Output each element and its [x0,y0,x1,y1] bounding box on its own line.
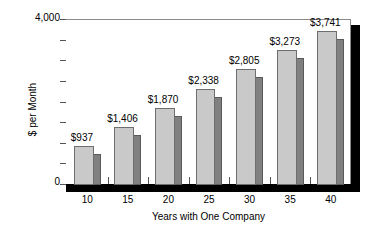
y-axis-title: $ per Month [27,55,38,165]
bar-value-label: $3,273 [269,36,300,47]
x-axis-tick-label: 40 [311,194,351,205]
bar[interactable] [196,89,223,185]
bar-group: $937 [74,20,101,185]
x-axis-tick [108,177,109,184]
bar-side-shadow [337,39,344,185]
bar-value-label: $1,406 [107,113,138,124]
bar-chart-figure: $ per Month 4,000 0 $937$1,406$1,870$2,3… [0,0,379,232]
bar-front-face [317,31,337,185]
bar-side-shadow [297,58,304,185]
bar-side-shadow [134,135,141,185]
bar-front-face [236,69,256,185]
bar-group: $2,805 [236,20,263,185]
bar[interactable] [114,127,141,185]
x-axis-tick [229,177,230,184]
bar-front-face [155,108,175,185]
bar-side-shadow [94,154,101,185]
bar-side-shadow [175,116,182,185]
bar[interactable] [74,146,101,185]
x-axis-tick [189,177,190,184]
bar[interactable] [317,31,344,185]
bar-group: $2,338 [196,20,223,185]
bar-group: $3,273 [277,20,304,185]
bar-value-label: $1,870 [148,94,179,105]
bar[interactable] [236,69,263,185]
bar-side-shadow [256,77,263,185]
x-axis-tick-label: 30 [230,194,270,205]
bar-front-face [74,146,94,185]
bar-front-face [196,89,216,185]
bar-value-label: $937 [71,132,93,143]
frame-shadow-right [351,25,360,192]
bar-front-face [277,50,297,185]
bar-group: $1,870 [155,20,182,185]
x-axis-tick-label: 10 [67,194,107,205]
frame-shadow-bottom [66,184,360,192]
bar[interactable] [277,50,304,185]
x-axis-tick [148,177,149,184]
x-axis-tick-label: 15 [108,194,148,205]
y-axis-tick-label-max: 4,000 [22,12,60,23]
x-axis-tick-label: 20 [148,194,188,205]
x-axis-tick-label: 25 [189,194,229,205]
bar-front-face [114,127,134,185]
bar-series: $937$1,406$1,870$2,338$2,805$3,273$3,741 [67,20,351,185]
bar-group: $3,741 [317,20,344,185]
bar[interactable] [155,108,182,185]
y-axis-tick-label-min: 0 [22,176,60,187]
bar-value-label: $2,805 [229,55,260,66]
bar-value-label: $3,741 [310,17,341,28]
bar-side-shadow [215,97,222,185]
x-axis-tick-label: 35 [270,194,310,205]
bar-value-label: $2,338 [188,75,219,86]
x-axis-tick [310,177,311,184]
x-axis-tick [270,177,271,184]
bar-group: $1,406 [114,20,141,185]
x-axis-title: Years with One Company [66,211,351,222]
